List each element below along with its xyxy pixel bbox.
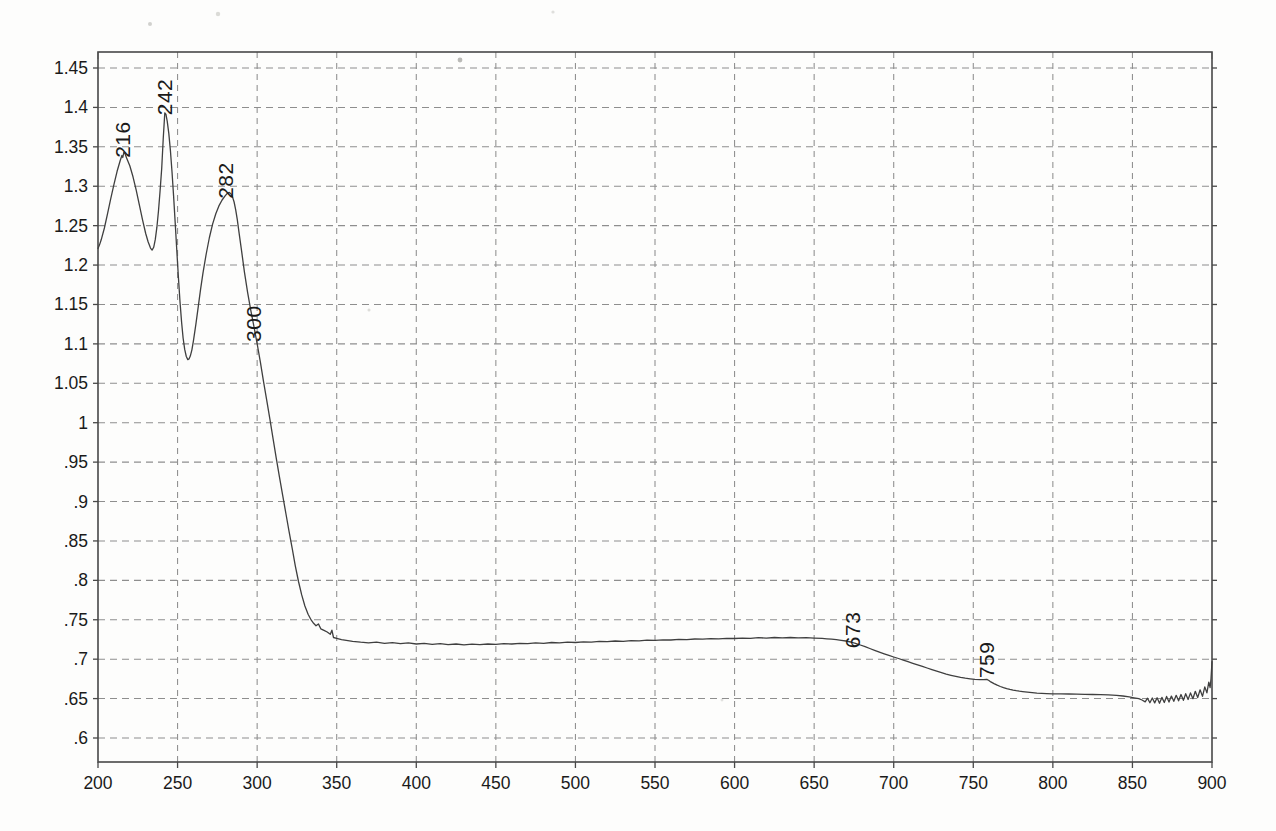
y-tick-label: 1.1 bbox=[64, 334, 88, 354]
y-tick-label: .85 bbox=[64, 531, 88, 551]
y-tick-label: 1.25 bbox=[54, 216, 88, 236]
x-tick-label: 500 bbox=[561, 773, 590, 793]
peak-label-242: 242 bbox=[153, 79, 176, 116]
x-tick-label: 650 bbox=[800, 773, 829, 793]
peak-label-673: 673 bbox=[841, 612, 864, 649]
x-tick-label: 700 bbox=[879, 773, 908, 793]
x-tick-label: 750 bbox=[959, 773, 988, 793]
x-tick-label: 450 bbox=[481, 773, 510, 793]
y-tick-label: 1.05 bbox=[54, 373, 88, 393]
scan-artifacts bbox=[148, 10, 723, 701]
y-tick-label: .65 bbox=[64, 689, 88, 709]
x-tick-label: 800 bbox=[1038, 773, 1067, 793]
y-tick-label: .6 bbox=[73, 728, 88, 748]
peak-label-300: 300 bbox=[242, 305, 265, 342]
x-tick-label: 550 bbox=[640, 773, 669, 793]
y-tick-label: .95 bbox=[64, 452, 88, 472]
x-tick-label: 400 bbox=[402, 773, 431, 793]
scan-speck bbox=[458, 58, 463, 63]
y-tick-label: 1 bbox=[78, 413, 88, 433]
x-tick-label: 850 bbox=[1118, 773, 1147, 793]
x-tick-label: 350 bbox=[322, 773, 351, 793]
y-tick-label: .7 bbox=[73, 649, 88, 669]
y-tick-label: .75 bbox=[64, 610, 88, 630]
scan-speck bbox=[551, 10, 554, 13]
scan-speck bbox=[216, 12, 220, 16]
uv-vis-absorbance-spectrum-chart: 1.451.41.351.31.251.21.151.11.051.95.9.8… bbox=[0, 0, 1276, 831]
peak-label-759: 759 bbox=[975, 642, 998, 679]
x-tick-label: 900 bbox=[1197, 773, 1226, 793]
scanned-spectrum-page: 1.451.41.351.31.251.21.151.11.051.95.9.8… bbox=[0, 0, 1276, 831]
peak-label-216: 216 bbox=[111, 121, 134, 158]
x-tick-label: 200 bbox=[83, 773, 112, 793]
scan-speck bbox=[368, 309, 371, 312]
x-tick-label: 300 bbox=[243, 773, 272, 793]
y-tick-label: 1.15 bbox=[54, 294, 88, 314]
y-tick-label: 1.45 bbox=[54, 58, 88, 78]
y-tick-label: .9 bbox=[73, 492, 88, 512]
y-tick-label: .8 bbox=[73, 570, 88, 590]
scan-speck bbox=[148, 22, 152, 26]
peak-label-282: 282 bbox=[214, 162, 237, 199]
x-tick-label: 250 bbox=[163, 773, 192, 793]
y-tick-label: 1.4 bbox=[64, 97, 89, 117]
grid-layer bbox=[98, 52, 1212, 762]
peak-annotation-layer: 216242282300673759 bbox=[111, 79, 998, 678]
y-tick-label: 1.3 bbox=[64, 176, 88, 196]
x-tick-label: 600 bbox=[720, 773, 749, 793]
y-tick-label: 1.2 bbox=[64, 255, 88, 275]
y-tick-label: 1.35 bbox=[54, 137, 88, 157]
